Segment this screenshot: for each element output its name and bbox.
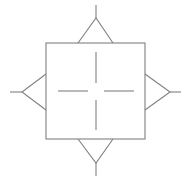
right-triangle — [145, 74, 170, 110]
technical-drawing-svg — [0, 0, 191, 180]
top-triangle — [78, 18, 113, 43]
diagram-canvas — [0, 0, 191, 180]
bottom-triangle — [78, 139, 113, 163]
shape-group — [10, 5, 181, 176]
left-triangle — [22, 74, 46, 110]
